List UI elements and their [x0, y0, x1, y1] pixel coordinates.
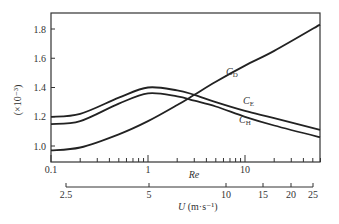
- y-tick-label: 1.6: [34, 53, 47, 64]
- y-axis-title: (×10⁻³): [12, 85, 24, 116]
- u-axis: 2.5510152025: [60, 183, 318, 200]
- y-tick-label: 1.0: [34, 141, 47, 152]
- u-axis-title: U (m·s⁻¹): [178, 201, 218, 213]
- u-tick-label: 5: [147, 189, 152, 200]
- label-c-e: CE: [243, 95, 254, 108]
- label-c-d: CD: [226, 66, 238, 79]
- plot-border: [51, 13, 320, 162]
- re-tick-label: 0.1: [45, 164, 58, 175]
- re-axis: 0.1110: [45, 155, 321, 175]
- u-tick-label: 2.5: [60, 189, 73, 200]
- y-tick-label: 1.2: [34, 111, 47, 122]
- u-tick-label: 25: [308, 189, 318, 200]
- u-tick-label: 15: [258, 189, 268, 200]
- re-tick-label: 1: [146, 164, 151, 175]
- plot-frame: [51, 13, 320, 162]
- curves: [51, 25, 320, 151]
- u-unit: (m·s⁻¹): [185, 201, 217, 213]
- curve-c-d: [51, 25, 320, 151]
- re-axis-title: Re: [188, 169, 200, 180]
- re-tick-label: 10: [240, 164, 250, 175]
- u-tick-label: 10: [221, 189, 231, 200]
- chart: 1.01.21.41.61.8 0.1110 2.5510152025 CDCE…: [0, 0, 339, 224]
- y-tick-label: 1.8: [34, 24, 47, 35]
- label-c-h: CH: [239, 114, 251, 127]
- y-tick-label: 1.4: [34, 82, 47, 93]
- y-axis: 1.01.21.41.61.8: [34, 24, 56, 152]
- u-tick-label: 20: [286, 189, 296, 200]
- curve-c-e: [51, 87, 320, 130]
